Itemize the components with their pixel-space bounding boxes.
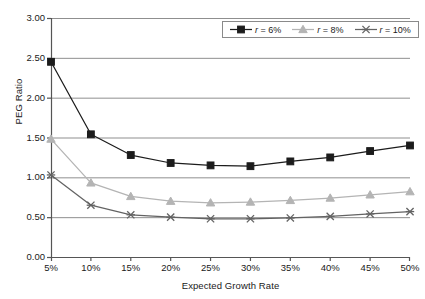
data-point-marker bbox=[367, 148, 374, 155]
data-point-marker bbox=[287, 158, 294, 165]
legend-entry: r = 8% bbox=[292, 24, 343, 35]
data-point-marker bbox=[127, 152, 134, 159]
plot-area bbox=[0, 0, 425, 299]
data-point-marker bbox=[167, 160, 174, 167]
series-line bbox=[51, 62, 410, 166]
series-r-6- bbox=[48, 58, 414, 169]
data-point-marker bbox=[407, 142, 414, 149]
data-point-marker bbox=[207, 162, 214, 169]
legend-label: r = 8% bbox=[317, 25, 343, 35]
data-point-marker bbox=[327, 154, 334, 161]
chart-figure: PEG Ratio Expected Growth Rate 0.000.501… bbox=[0, 0, 425, 299]
legend-marker-icon bbox=[355, 24, 377, 35]
data-point-marker bbox=[406, 187, 414, 194]
legend-label: r = 6% bbox=[255, 25, 281, 35]
legend-marker-icon bbox=[292, 24, 314, 35]
series-line bbox=[51, 175, 410, 219]
data-point-marker bbox=[238, 26, 245, 33]
legend-entry: r = 6% bbox=[230, 24, 281, 35]
data-point-marker bbox=[87, 131, 94, 138]
chart-legend: r = 6%r = 8%r = 10% bbox=[222, 21, 419, 38]
series-r-8- bbox=[47, 135, 414, 206]
data-point-marker bbox=[48, 58, 55, 65]
data-point-marker bbox=[247, 163, 254, 170]
series-line bbox=[51, 139, 410, 203]
legend-label: r = 10% bbox=[380, 25, 411, 35]
series-r-10- bbox=[47, 171, 414, 222]
legend-entry: r = 10% bbox=[355, 24, 411, 35]
legend-marker-icon bbox=[230, 24, 252, 35]
